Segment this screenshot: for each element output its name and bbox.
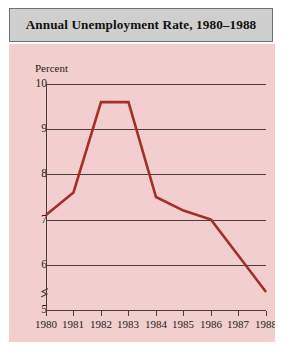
data-series-line xyxy=(9,44,275,342)
unemployment-rate-figure: Annual Unemployment Rate, 1980–1988 Perc… xyxy=(0,0,283,350)
figure-title-bar: Annual Unemployment Rate, 1980–1988 xyxy=(9,8,273,42)
page-title: Annual Unemployment Rate, 1980–1988 xyxy=(26,17,257,33)
plot-area: 10 9 8 7 6 5 1980 1981 1982 xyxy=(9,44,275,342)
chart-panel: Percent 10 9 8 7 6 5 xyxy=(9,44,275,342)
